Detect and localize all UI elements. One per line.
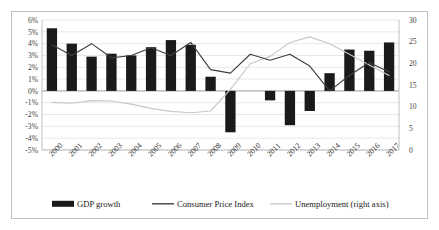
- legend-label: Unemployment (right axis): [295, 199, 389, 209]
- x-tick-label: 2006: [166, 141, 183, 158]
- y-tick-label-left: 6%: [28, 16, 39, 25]
- bar-gdp-growth: [126, 55, 136, 90]
- bar-gdp-growth: [205, 77, 215, 91]
- x-tick-label: 2005: [146, 141, 163, 158]
- cpi-path: [52, 42, 389, 90]
- y-tick-label-left: -1%: [25, 98, 38, 107]
- x-tick-label: 2004: [126, 141, 143, 158]
- bar-gdp-growth: [384, 42, 394, 90]
- plot-area: -5%-4%-3%-2%-1%0%1%2%3%4%5%6% 0510152025…: [12, 12, 427, 218]
- bar-gdp-growth: [146, 47, 156, 91]
- y-tick-label-left: 4%: [28, 39, 39, 48]
- bar-gdp-growth: [86, 57, 96, 91]
- y-tick-label-left: -2%: [25, 110, 38, 119]
- x-tick-label: 2001: [67, 141, 84, 158]
- bar-gdp-growth: [166, 40, 176, 91]
- bar-gdp-growth: [225, 91, 235, 132]
- bar-gdp-growth: [364, 51, 374, 91]
- y-tick-label-right: 20: [409, 59, 417, 68]
- chart-container: -5%-4%-3%-2%-1%0%1%2%3%4%5%6% 0510152025…: [11, 11, 428, 219]
- legend-label: GDP growth: [77, 199, 121, 209]
- x-tick-label: 2016: [364, 141, 381, 158]
- bar-gdp-growth: [67, 44, 77, 91]
- y-tick-label-right: 0: [409, 146, 413, 155]
- y-tick-label-left: -4%: [25, 134, 38, 143]
- x-tick-label: 2008: [206, 141, 223, 158]
- x-tick-label: 2007: [186, 141, 203, 158]
- x-tick-label: 2003: [106, 141, 123, 158]
- bar-gdp-growth: [47, 28, 57, 91]
- bar-gdp-growth: [186, 45, 196, 91]
- unemployment-line: [52, 37, 389, 113]
- x-tick-label: 2011: [265, 141, 282, 158]
- y-tick-label-left: -5%: [25, 146, 38, 155]
- legend-swatch-gdp-growth: [52, 201, 74, 207]
- y-tick-label-right: 10: [409, 102, 417, 111]
- x-tick-label: 2013: [305, 141, 322, 158]
- x-tick-label: 2010: [245, 141, 262, 158]
- y-tick-label-right: 15: [409, 81, 417, 90]
- chart-legend: GDP growthConsumer Price IndexUnemployme…: [52, 199, 389, 209]
- x-tick-label: 2009: [225, 141, 242, 158]
- y-tick-label-right: 5: [409, 124, 413, 133]
- legend-label: Consumer Price Index: [177, 199, 255, 209]
- y-tick-label-left: -3%: [25, 122, 38, 131]
- x-tick-label: 2015: [344, 141, 361, 158]
- chart-svg: -5%-4%-3%-2%-1%0%1%2%3%4%5%6% 0510152025…: [12, 12, 427, 218]
- bar-gdp-growth: [265, 91, 275, 100]
- unemployment-path: [52, 37, 389, 113]
- bar-gdp-growth: [285, 91, 295, 125]
- y-tick-label-left: 5%: [28, 28, 39, 37]
- x-tick-label: 2000: [47, 141, 64, 158]
- y-axis-right-labels: 051015202530: [409, 16, 417, 155]
- x-tick-label: 2002: [87, 141, 104, 158]
- y-tick-label-left: 3%: [28, 51, 39, 60]
- y-tick-label-right: 25: [409, 37, 417, 46]
- x-tick-label: 2014: [325, 141, 342, 158]
- x-tick-label: 2012: [285, 141, 302, 158]
- y-tick-label-right: 30: [409, 16, 417, 25]
- bar-gdp-growth: [305, 91, 315, 111]
- y-tick-label-left: 1%: [28, 75, 39, 84]
- y-axis-left-labels: -5%-4%-3%-2%-1%0%1%2%3%4%5%6%: [25, 16, 38, 155]
- y-tick-label-left: 2%: [28, 63, 39, 72]
- bar-gdp-growth: [106, 54, 116, 91]
- y-tick-label-left: 0%: [28, 87, 39, 96]
- consumer-price-index-line: [52, 42, 389, 90]
